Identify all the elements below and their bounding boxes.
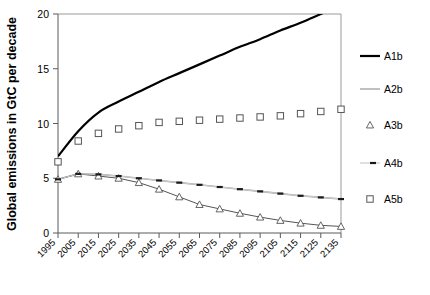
series-a3b bbox=[54, 170, 344, 229]
data-point-marker-triangle bbox=[176, 193, 183, 200]
y-tick-label: 5 bbox=[43, 172, 49, 184]
data-point-marker-square bbox=[257, 114, 263, 120]
y-tick-label: 20 bbox=[37, 8, 49, 20]
legend-swatch-a5b-icon bbox=[367, 196, 373, 202]
x-tick-group: 1995200520152025203520452055206520752085… bbox=[35, 233, 341, 259]
data-point-marker-dash bbox=[197, 184, 203, 186]
y-tick-label: 15 bbox=[37, 63, 49, 75]
data-point-marker-dash bbox=[370, 162, 376, 164]
x-tick-label: 2075 bbox=[196, 237, 219, 260]
x-tick-label: 2055 bbox=[156, 237, 179, 260]
chart-container: Global emissions in GtC per decade 0 5 1… bbox=[0, 0, 430, 295]
data-point-marker-square bbox=[196, 117, 202, 123]
x-tick-label: 2085 bbox=[217, 237, 240, 260]
data-point-marker-square bbox=[318, 108, 324, 114]
data-point-marker-square bbox=[95, 130, 101, 136]
data-point-marker-square bbox=[217, 116, 223, 122]
emissions-line-chart: Global emissions in GtC per decade 0 5 1… bbox=[0, 0, 430, 295]
data-point-marker-square bbox=[75, 138, 81, 144]
data-point-marker-square bbox=[277, 113, 283, 119]
data-point-marker-square bbox=[367, 196, 373, 202]
data-point-marker-triangle bbox=[366, 121, 373, 128]
legend-item-a2b[interactable]: A2b bbox=[360, 83, 403, 95]
x-tick-label: 2105 bbox=[257, 237, 280, 260]
data-point-marker-square bbox=[156, 119, 162, 125]
series-layer bbox=[54, 5, 344, 229]
legend-label: A2b bbox=[384, 83, 403, 95]
chart-legend: A1bA2bA3bA4bA5b bbox=[360, 50, 403, 205]
x-tick-label: 2135 bbox=[318, 237, 341, 260]
data-point-marker-dash bbox=[257, 190, 263, 192]
data-point-marker-dash bbox=[176, 182, 182, 184]
data-point-marker-dash bbox=[75, 173, 81, 175]
data-point-marker-dash bbox=[237, 188, 243, 190]
legend-item-a4b[interactable]: A4b bbox=[360, 157, 403, 169]
legend-label: A1b bbox=[384, 50, 403, 62]
data-point-marker-square bbox=[55, 159, 61, 165]
series-a5b bbox=[55, 106, 344, 165]
data-point-marker-dash bbox=[318, 196, 324, 198]
data-point-marker-square bbox=[237, 115, 243, 121]
x-tick-label: 2035 bbox=[116, 237, 139, 260]
x-tick-label: 2115 bbox=[278, 237, 300, 259]
y-tick-group: 0 5 10 15 20 bbox=[37, 8, 58, 239]
data-point-marker-dash bbox=[338, 198, 344, 200]
legend-swatch-a3b-icon bbox=[366, 121, 373, 128]
data-point-marker-square bbox=[338, 106, 344, 112]
x-tick-label: 2005 bbox=[55, 237, 78, 260]
legend-label: A5b bbox=[384, 193, 403, 205]
x-tick-label: 2065 bbox=[176, 237, 199, 260]
legend-swatch-a4b-icon bbox=[360, 162, 380, 164]
y-tick-label: 10 bbox=[37, 118, 49, 130]
y-axis-label: Global emissions in GtC per decade bbox=[5, 17, 19, 231]
data-point-marker-dash bbox=[116, 175, 122, 177]
data-point-marker-square bbox=[136, 122, 142, 128]
x-tick-label: 2095 bbox=[237, 237, 260, 260]
legend-label: A3b bbox=[384, 119, 403, 131]
legend-label: A4b bbox=[384, 157, 403, 169]
data-point-marker-square bbox=[176, 118, 182, 124]
data-point-marker-square bbox=[115, 126, 121, 132]
data-point-marker-dash bbox=[217, 186, 223, 188]
data-point-marker-dash bbox=[298, 195, 304, 197]
data-point-marker-dash bbox=[95, 173, 101, 175]
data-point-marker-dash bbox=[55, 178, 61, 180]
data-point-marker-dash bbox=[277, 192, 283, 194]
data-point-marker-triangle bbox=[196, 201, 203, 208]
legend-item-a5b[interactable]: A5b bbox=[367, 193, 403, 205]
x-tick-label: 2025 bbox=[95, 237, 118, 260]
x-tick-label: 2125 bbox=[297, 237, 320, 260]
x-tick-label: 2015 bbox=[75, 237, 98, 260]
legend-item-a1b[interactable]: A1b bbox=[360, 50, 403, 62]
data-point-marker-dash bbox=[156, 179, 162, 181]
x-tick-label: 2045 bbox=[136, 237, 159, 260]
data-point-marker-dash bbox=[136, 177, 142, 179]
data-point-marker-square bbox=[297, 110, 303, 116]
legend-item-a3b[interactable]: A3b bbox=[366, 119, 402, 131]
x-tick-label: 1995 bbox=[35, 237, 58, 260]
